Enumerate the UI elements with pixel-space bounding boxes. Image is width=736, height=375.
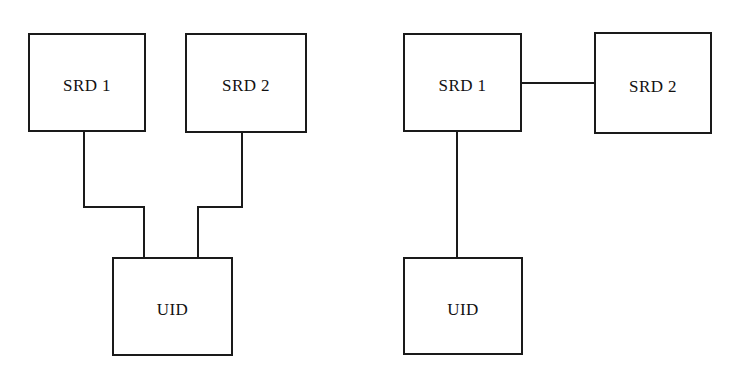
node-box-srd2-right[interactable]: SRD 2 [594,32,712,134]
node-box-srd1-right[interactable]: SRD 1 [403,33,522,132]
node-label-uid-left: UID [114,301,231,318]
node-label-srd1-right: SRD 1 [405,77,520,94]
node-box-srd2-left[interactable]: SRD 2 [185,33,307,133]
diagram-canvas: SRD 1 SRD 2 UID SRD 1 SRD 2 UID [0,0,736,375]
node-label-uid-right: UID [405,301,521,318]
node-box-uid-left[interactable]: UID [112,257,233,356]
connector-srd2-to-uid-left [198,133,242,258]
node-box-srd1-left[interactable]: SRD 1 [28,33,146,132]
connector-srd1-to-uid-left [84,132,144,258]
node-label-srd2-right: SRD 2 [596,78,710,95]
node-label-srd2-left: SRD 2 [187,77,305,94]
node-box-uid-right[interactable]: UID [403,257,523,355]
node-label-srd1-left: SRD 1 [30,77,144,94]
